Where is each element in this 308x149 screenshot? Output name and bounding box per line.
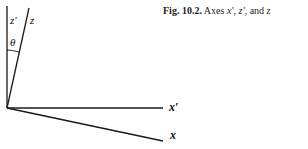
x-axis <box>7 108 163 141</box>
caption-prefix: Axes <box>204 5 225 16</box>
theta-label: θ <box>10 36 15 48</box>
x-label: x <box>170 128 176 143</box>
caption-axis3: z <box>267 5 271 16</box>
figure-caption: Fig. 10.2. Axes x′, z′, and z <box>163 5 271 16</box>
theta-arc <box>7 50 19 52</box>
figure-number: Fig. 10.2. <box>163 5 202 16</box>
x-prime-label: x′ <box>169 100 178 115</box>
caption-sep1: , <box>234 5 237 16</box>
z-prime-label: z′ <box>10 14 17 26</box>
caption-sep2: , and <box>245 5 264 16</box>
z-label: z <box>30 14 34 26</box>
axes-diagram <box>0 0 308 149</box>
caption-axis1: x′ <box>227 5 234 16</box>
